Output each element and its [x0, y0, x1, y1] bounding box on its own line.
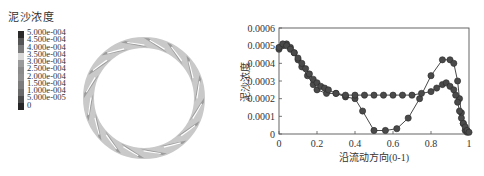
data-point-marker [451, 60, 457, 66]
x-tick-label: 0.2 [311, 138, 324, 149]
legend-title: 泥沙浓度 [8, 8, 54, 24]
data-point-marker [303, 66, 309, 72]
data-point-marker [456, 108, 462, 114]
data-point-marker [418, 90, 424, 96]
x-tick-label: 1 [467, 138, 472, 149]
contour-legend: 泥沙浓度 5.000e-0044.500e-0044.000e-0043.500… [0, 0, 80, 130]
concentration-chart: 泥沙浓度 沿流动方向(0-1) 00.20.40.60.8100.00010.0… [240, 0, 484, 176]
data-point-marker [360, 108, 366, 114]
y-tick-label: 0.0001 [248, 111, 276, 122]
data-point-marker [405, 115, 411, 121]
line-chart: 泥沙浓度 沿流动方向(0-1) 00.20.40.60.8100.00010.0… [240, 0, 484, 176]
data-point-marker [466, 129, 472, 135]
data-point-marker [382, 127, 388, 133]
colorbar-swatch [18, 53, 24, 60]
colorbar-swatch [18, 31, 24, 38]
data-point-marker [299, 60, 305, 66]
x-tick-label: 0.4 [349, 138, 362, 149]
x-tick-label: 0 [277, 138, 282, 149]
data-point-marker [361, 92, 367, 98]
y-tick-label: 0.0003 [248, 76, 276, 87]
colorbar-swatch [18, 67, 24, 74]
data-point-marker [428, 73, 434, 79]
colorbar-swatch [18, 45, 24, 52]
x-axis-label: 沿流动方向(0-1) [339, 151, 409, 164]
colorbar-labels: 5.000e-0044.500e-0044.000e-0043.500e-004… [27, 29, 66, 109]
data-point-marker [342, 92, 348, 98]
y-tick-label: 0.0005 [248, 40, 276, 51]
x-tick-label: 0.8 [425, 138, 438, 149]
data-point-marker [455, 78, 461, 84]
colorbar-level-label: 5.000e-005 [27, 94, 66, 101]
data-point-marker [291, 50, 297, 56]
data-point-marker [390, 92, 396, 98]
y-tick-label: 0 [270, 129, 275, 140]
colorbar-swatch [18, 103, 24, 110]
plot-frame [279, 28, 469, 134]
ring-plot [80, 34, 208, 162]
data-point-marker [434, 85, 440, 91]
data-point-marker [394, 126, 400, 132]
colorbar-swatch [18, 60, 24, 67]
data-point-marker [371, 127, 377, 133]
y-tick-label: 0.0004 [248, 58, 276, 69]
data-point-marker [455, 99, 461, 105]
data-point-marker [352, 92, 358, 98]
colorbar-swatch [18, 74, 24, 81]
x-tick-label: 0.6 [387, 138, 400, 149]
data-point-marker [453, 92, 459, 98]
colorbar-level-label: 0 [27, 102, 66, 109]
colorbar-swatch [18, 38, 24, 45]
data-point-marker [399, 92, 405, 98]
data-point-marker [428, 89, 434, 95]
data-point-marker [295, 55, 301, 61]
data-point-marker [325, 87, 331, 93]
y-tick-label: 0.0006 [248, 23, 276, 34]
ring-band [89, 43, 200, 154]
y-tick-label: 0.0002 [248, 93, 276, 104]
data-point-marker [371, 92, 377, 98]
data-point-marker [306, 71, 312, 77]
data-point-marker [409, 92, 415, 98]
colorbar-swatch [18, 81, 24, 88]
sediment-contour-ring [80, 34, 208, 162]
data-point-marker [439, 57, 445, 63]
colorbar-swatch [18, 96, 24, 103]
colorbar [18, 31, 24, 110]
data-point-marker [333, 90, 339, 96]
colorbar-swatch [18, 89, 24, 96]
data-point-marker [380, 92, 386, 98]
